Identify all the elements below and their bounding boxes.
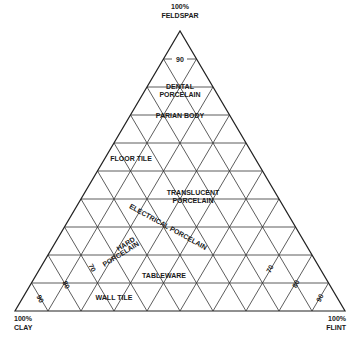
region-translucent-porcelain-line1: TRANSLUCENT bbox=[167, 189, 220, 196]
region-dental-porcelain-line1: DENTAL bbox=[166, 83, 195, 90]
region-translucent-porcelain-line2: PORCELAIN bbox=[172, 197, 213, 204]
tick-label-right-80: 80 bbox=[291, 279, 301, 289]
vertex-flint-percent: 100% bbox=[328, 315, 347, 322]
grid-line bbox=[114, 115, 230, 311]
ternary-diagram: 100% FELDSPAR 100% CLAY 100% FLINT 90 70… bbox=[0, 0, 358, 339]
region-floor-tile: FLOOR TILE bbox=[110, 155, 152, 162]
vertex-clay-percent: 100% bbox=[14, 315, 33, 322]
tick-label-left-80: 80 bbox=[61, 280, 71, 290]
region-tableware: TABLEWARE bbox=[142, 272, 186, 279]
vertex-feldspar-percent: 100% bbox=[171, 3, 190, 10]
vertex-flint-label: FLINT bbox=[326, 324, 347, 331]
vertex-clay-label: CLAY bbox=[14, 324, 33, 331]
tick-label-left-70: 70 bbox=[87, 263, 97, 273]
tick-label-left-90: 90 bbox=[35, 294, 45, 304]
region-parian-body: PARIAN BODY bbox=[156, 112, 205, 119]
tick-label-feldspar-90: 90 bbox=[176, 56, 184, 63]
vertex-feldspar-label: FELDSPAR bbox=[161, 12, 198, 19]
region-wall-tile: WALL TILE bbox=[96, 294, 133, 301]
tick-label-right-90: 90 bbox=[315, 293, 325, 303]
region-dental-porcelain-line2: PORCELAIN bbox=[159, 91, 200, 98]
